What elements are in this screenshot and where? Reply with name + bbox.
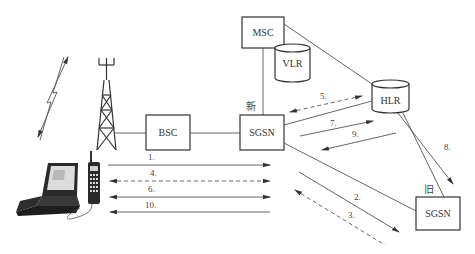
sgsn-old-node: 旧 SGSN	[416, 184, 460, 230]
svg-text:4.: 4.	[150, 168, 157, 178]
svg-text:9.: 9.	[352, 129, 359, 139]
message-3: 3.	[295, 190, 385, 245]
gprs-routing-update-diagram: BSC MSC VLR 新 SGSN HLR 旧 SGSN	[0, 0, 475, 254]
message-6: 6.	[110, 184, 270, 197]
message-9: 9.	[322, 129, 396, 150]
sgsn-new-label: SGSN	[249, 127, 275, 138]
svg-text:8.: 8.	[444, 142, 451, 152]
bsc-label: BSC	[159, 127, 178, 138]
message-4: 4.	[110, 168, 270, 181]
hlr-label: HLR	[381, 95, 401, 106]
sgsn-old-label: SGSN	[425, 208, 451, 219]
sgsn-new-tag: 新	[246, 100, 256, 112]
sgsn-old-tag: 旧	[424, 184, 434, 195]
vlr-database: VLR	[275, 44, 310, 82]
svg-text:6.: 6.	[148, 184, 155, 194]
laptop-with-mobile-phone-icon	[16, 151, 100, 219]
radio-signal-icon	[38, 57, 68, 140]
vlr-label: VLR	[283, 58, 303, 69]
sgsn-hlr-link	[284, 101, 372, 125]
svg-text:5.: 5.	[320, 91, 327, 101]
message-5: 5.	[290, 91, 362, 112]
svg-text:10.: 10.	[145, 200, 156, 210]
sgsn-sgsn-link	[284, 143, 416, 211]
svg-text:7.: 7.	[330, 118, 337, 128]
msc-node: MSC	[242, 17, 284, 48]
message-7: 7.	[300, 118, 373, 136]
radio-tower-icon	[97, 58, 116, 150]
bsc-node: BSC	[146, 115, 190, 150]
msc-label: MSC	[252, 27, 273, 38]
svg-text:1.: 1.	[148, 152, 155, 162]
svg-text:3.: 3.	[348, 210, 355, 220]
hlr-database: HLR	[372, 80, 409, 113]
message-10: 10.	[110, 200, 270, 212]
message-8: 8.	[398, 113, 453, 184]
message-1: 1.	[108, 152, 270, 165]
svg-text:2.: 2.	[354, 192, 361, 202]
sgsn-new-node: 新 SGSN	[240, 100, 284, 150]
